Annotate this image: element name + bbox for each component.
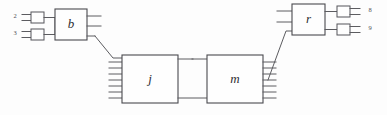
terminal-box-2 <box>31 12 44 23</box>
terminal-label-8: 8 <box>368 6 371 13</box>
wire-b-j-diagonal <box>95 36 122 58</box>
block-b[interactable]: b <box>55 9 87 40</box>
terminal-box-3 <box>31 29 44 40</box>
connection-b-to-j <box>95 36 122 58</box>
j-left-ports <box>109 62 122 98</box>
terminal-group-2: 2 <box>13 12 55 23</box>
terminal-group-9: 9 <box>325 24 372 35</box>
terminal-label-9: 9 <box>368 24 371 31</box>
terminal-group-3: 3 <box>13 29 55 40</box>
wire-m-r-diagonal <box>268 31 292 80</box>
terminal-group-8: 8 <box>325 6 372 17</box>
block-diagram: 2 3 b <box>0 0 387 115</box>
terminal-label-3: 3 <box>13 29 16 36</box>
block-m-label: m <box>230 71 239 86</box>
m-right-ports <box>263 62 276 98</box>
connection-m-to-r <box>268 31 292 80</box>
block-r[interactable]: r <box>292 4 325 35</box>
schematic-canvas: 2 3 b <box>0 0 387 115</box>
block-j[interactable]: j <box>122 55 178 103</box>
block-m[interactable]: m <box>207 55 263 103</box>
terminal-label-2: 2 <box>13 12 16 19</box>
terminal-box-8 <box>337 6 350 17</box>
terminal-box-9 <box>337 24 350 35</box>
block-b-label: b <box>68 16 75 31</box>
